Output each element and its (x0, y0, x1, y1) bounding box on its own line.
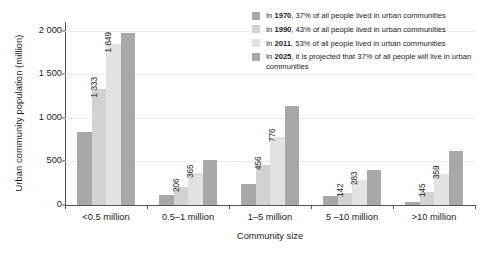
bar: 283 (352, 180, 367, 205)
y-axis-tick-label: 2 000 (16, 26, 62, 35)
y-axis-tick-mark (62, 30, 65, 31)
bar-value-label: 1 333 (91, 77, 99, 98)
legend-year: 2025 (274, 52, 291, 61)
x-axis-tick-mark (393, 205, 394, 209)
y-axis-tick-label: 1 500 (16, 70, 62, 79)
x-axis-title: Community size (65, 231, 475, 241)
bar-value-label: 776 (269, 129, 277, 143)
bar (367, 170, 382, 205)
legend-label: In 2025, it is projected that 37% of all… (266, 52, 484, 71)
legend-item: In 1970, 37% of all people lived in urba… (252, 11, 484, 20)
legend-year: 2011 (274, 39, 290, 48)
bar (405, 202, 420, 205)
y-axis-tick-mark (62, 161, 65, 162)
bar (77, 132, 92, 205)
x-axis-tick-mark (65, 205, 66, 209)
bar (449, 151, 464, 205)
bar: 365 (188, 173, 203, 205)
legend-item: In 2011, 53% of all people lived in urba… (252, 39, 484, 48)
x-axis-line (65, 205, 475, 206)
bar-value-label: 1 849 (105, 32, 113, 53)
x-axis-tick-label: >10 million (412, 212, 457, 222)
bar (323, 196, 338, 205)
legend-label: In 2011, 53% of all people lived in urba… (266, 39, 445, 48)
x-axis-tick-mark (311, 205, 312, 209)
bar (121, 33, 136, 205)
chart-legend: In 1970, 37% of all people lived in urba… (252, 11, 484, 75)
x-axis-tick-mark (475, 205, 476, 209)
y-axis-tick-labels: 05001 0001 5002 000 (14, 0, 62, 257)
bar: 145 (420, 192, 435, 205)
legend-swatch (252, 25, 260, 33)
bar-value-label: 206 (173, 178, 181, 192)
y-axis-tick-mark (62, 117, 65, 118)
x-axis-tick-label: 1–5 million (248, 212, 292, 222)
y-axis-tick-mark (62, 74, 65, 75)
bar-value-label: 359 (433, 165, 441, 179)
legend-label: In 1990, 43% of all people lived in urba… (266, 25, 446, 34)
bar: 142 (338, 193, 353, 205)
bar: 456 (256, 165, 271, 205)
bar-value-label: 283 (351, 172, 359, 186)
legend-item: In 2025, it is projected that 37% of all… (252, 52, 484, 71)
legend-year: 1990 (274, 25, 291, 34)
legend-item: In 1990, 43% of all people lived in urba… (252, 25, 484, 34)
bar-value-label: 365 (187, 164, 195, 178)
legend-swatch (252, 53, 260, 61)
y-axis-tick-label: 500 (16, 157, 62, 166)
y-axis-tick-label: 1 000 (16, 113, 62, 122)
y-axis-tick-label: 0 (16, 200, 62, 209)
bar-value-label: 145 (419, 184, 427, 198)
bar (285, 106, 300, 205)
bar: 359 (434, 174, 449, 205)
legend-year: 1970 (274, 11, 291, 20)
x-axis-tick-label: 0.5–1 million (162, 212, 214, 222)
x-axis-tick-mark (147, 205, 148, 209)
bar (241, 184, 256, 205)
bar: 1 333 (92, 89, 107, 205)
urban-population-bar-chart: Urban community population (million) 050… (0, 0, 490, 257)
legend-swatch (252, 39, 260, 47)
bar-value-label: 456 (255, 156, 263, 170)
legend-swatch (252, 12, 260, 20)
x-axis-tick-mark (229, 205, 230, 209)
bar-group: 1 3331 849 (77, 22, 135, 205)
x-axis-tick-label: <0.5 million (82, 212, 129, 222)
bar: 776 (270, 137, 285, 205)
bar: 1 849 (106, 44, 121, 205)
bar: 206 (174, 187, 189, 205)
legend-label: In 1970, 37% of all people lived in urba… (266, 11, 446, 20)
bar-group: 206365 (159, 22, 217, 205)
bar-value-label: 142 (337, 184, 345, 198)
bar (203, 160, 218, 205)
x-axis-tick-label: 5 –10 million (326, 212, 378, 222)
bar (159, 195, 174, 205)
